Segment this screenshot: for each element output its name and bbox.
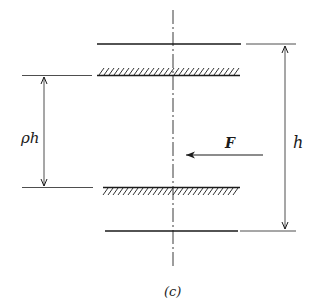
total-dimension-label: h (293, 133, 303, 152)
force-label: F (224, 135, 236, 151)
gap-dimension-label: ρh (20, 129, 39, 147)
bottom-hatched-surface (103, 188, 240, 196)
gap-dimension: ρh (20, 76, 93, 188)
top-hatched-surface (97, 68, 240, 76)
force-arrow: F (186, 135, 263, 155)
figure-caption: (c) (164, 284, 181, 299)
total-dimension: h (240, 44, 303, 231)
diagram-canvas: ρh h F (c) (0, 0, 314, 307)
